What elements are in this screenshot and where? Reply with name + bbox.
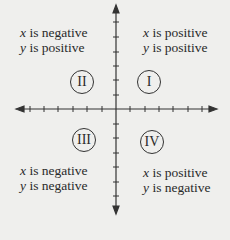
quadrant-ii-numeral: II xyxy=(70,70,94,94)
quadrant-i-numeral: I xyxy=(137,70,161,94)
quadrant-ii-description: x is negative y is positive xyxy=(20,25,87,55)
quadrant-iv-numeral: IV xyxy=(140,130,164,154)
quadrant-iii-description: x is negative y is negative xyxy=(20,163,87,193)
quadrant-iv-description: x is positive y is negative xyxy=(143,165,210,195)
quadrant-iii-numeral: III xyxy=(72,128,96,152)
quadrant-i-description: x is positive y is positive xyxy=(143,25,208,55)
